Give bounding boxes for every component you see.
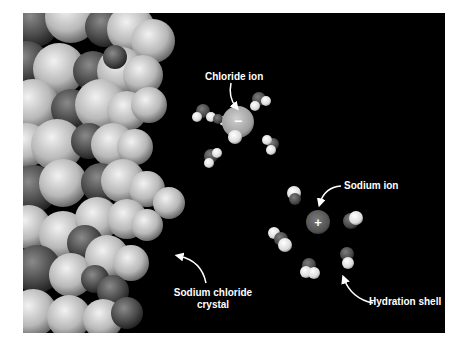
chloride-ion-group: − (192, 83, 279, 168)
water-molecule (268, 227, 292, 252)
crystal-label: Sodium chloride crystal (169, 287, 257, 311)
sodium-ion-label: Sodium ion (344, 180, 398, 192)
dissolution-figure: − + Chloride ion Sodium ion Sodium chlor… (23, 13, 445, 333)
crystal-arrow-icon (179, 256, 206, 283)
water-molecule (343, 211, 363, 229)
positive-charge-sign: + (314, 215, 322, 230)
sodium-chloride-crystal (23, 13, 185, 333)
hydration-shell-label: Hydration shell (369, 296, 441, 308)
negative-charge-sign: − (234, 113, 242, 129)
molecular-illustration: − + (23, 13, 445, 333)
water-molecule (192, 104, 216, 122)
chloride-ion-label: Chloride ion (205, 71, 263, 83)
water-molecule (300, 258, 320, 279)
chloride-arrow-icon (230, 83, 236, 107)
crystal-label-line2: crystal (169, 299, 257, 311)
water-molecule (287, 186, 301, 205)
water-molecule (340, 247, 354, 269)
water-molecule (204, 148, 222, 168)
water-molecule (262, 135, 279, 155)
water-molecule (250, 92, 271, 111)
crystal-label-line1: Sodium chloride (169, 287, 257, 299)
sodium-arrow-icon (320, 186, 341, 203)
sodium-ion-group: + (268, 186, 363, 279)
